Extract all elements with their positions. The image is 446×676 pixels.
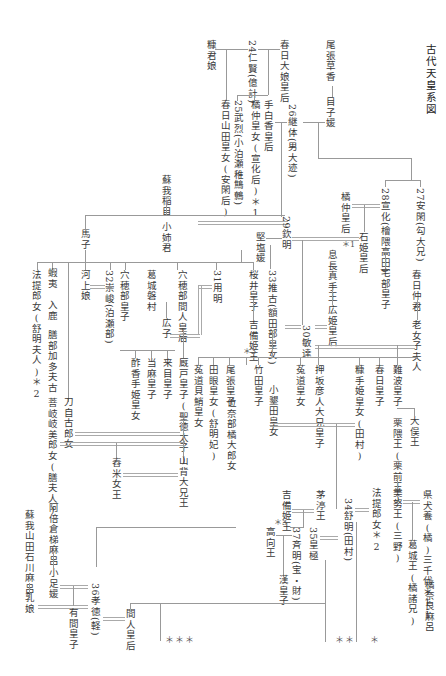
marriage-line (352, 204, 380, 208)
line (166, 302, 167, 318)
line (53, 552, 54, 568)
marriage-line (75, 432, 180, 436)
line (318, 122, 319, 158)
node-emishi: 蝦夷 (47, 268, 58, 289)
line (96, 527, 97, 567)
line (412, 502, 413, 540)
line (332, 86, 333, 97)
node-chinu: 茅渟王 (315, 490, 326, 522)
line (160, 603, 325, 604)
line (85, 215, 285, 216)
node-uji-kaidako: 菟道貝鮹皇女 (193, 365, 204, 428)
footnote-mark: ＊3 (274, 516, 287, 527)
node-kume: 来目皇子 (162, 358, 173, 400)
node-kasuga-oiratsume: 春日大娘皇后 (279, 40, 290, 103)
node-hashihito-kogo: 間人皇后 (125, 609, 136, 651)
line (229, 357, 230, 365)
line (414, 408, 415, 416)
line (216, 262, 217, 270)
node-hote: 法提郎女(舒明夫人)＊2 (31, 270, 42, 399)
line (318, 345, 319, 365)
node-oane: 小姉君 (161, 222, 172, 254)
node-hirohime: 広姫皇后 (327, 305, 338, 347)
marriage-line (60, 585, 88, 589)
line (385, 255, 386, 268)
line (167, 350, 168, 358)
node-emperor-29: 29欽明 (281, 216, 292, 250)
node-emperor-26: 26継体(男大迹) (287, 104, 298, 178)
line (325, 560, 326, 642)
marriage-line (103, 617, 125, 621)
marriage-line (285, 325, 301, 329)
line (332, 290, 333, 305)
node-hote-2: 法提郎女＊2 (371, 488, 382, 552)
line (397, 345, 398, 365)
line (303, 122, 325, 123)
node-hokiki: 菩岐岐美郎女(膳夫人) (47, 398, 58, 516)
line (420, 180, 421, 187)
node-sukate: 酢香手姫皇女 (130, 358, 141, 421)
node-tsukishine: 舂米女王 (111, 458, 122, 500)
node-katsuragi-nimuraji: 葛城磐村 (146, 270, 157, 312)
node-oharida: 小墾田皇女 (268, 385, 279, 438)
node-naramaro: 橘奈良麻呂 (424, 580, 435, 633)
node-uji-himemiko: 菟道皇女 (295, 365, 306, 407)
line (85, 250, 86, 262)
node-taima: 当麻皇子 (146, 358, 157, 400)
line (385, 180, 386, 187)
continuation-mark: ＊＊ (335, 633, 355, 646)
marriage-line (270, 423, 355, 427)
line (253, 300, 254, 320)
node-otarashi: 小足媛 (48, 568, 59, 600)
node-soga-yamada: 蘇我山田石川麻呂 (24, 510, 35, 594)
line (258, 49, 280, 50)
line (198, 357, 308, 358)
continuation-mark: ＊＊＊ (165, 633, 195, 646)
line (241, 250, 242, 262)
line (411, 158, 412, 180)
line (198, 357, 199, 365)
line (385, 180, 420, 181)
line (68, 262, 69, 402)
node-owari-kusaka: 尾張草香 (325, 40, 336, 82)
line (302, 240, 303, 325)
node-emperor-37: 37斉明(宝・財) (291, 527, 302, 601)
node-tachibana-kogo: 橘仲皇后 (340, 192, 351, 234)
node-emperor-36: 36孝徳(軽) (90, 583, 101, 636)
node-takamuku: 高向王 (265, 527, 276, 559)
line (237, 95, 268, 96)
node-kashiwade: 膳部加多夫古 (47, 330, 58, 393)
marriage-line (355, 508, 369, 512)
node-emperor-30: 30敏達 (301, 325, 312, 359)
marriage-line (170, 334, 200, 338)
line (37, 262, 38, 270)
line (300, 357, 301, 365)
node-minu: 美努王(三野) (392, 488, 403, 564)
node-kitashi: 堅塩媛 (255, 232, 266, 264)
line (166, 205, 167, 215)
marriage-line (315, 345, 415, 349)
line (253, 262, 254, 270)
line (85, 215, 86, 229)
line (258, 357, 259, 365)
node-chi-no-iratsume: 乳娘 (24, 593, 35, 614)
line (96, 527, 236, 528)
line (216, 262, 254, 263)
line (110, 262, 111, 270)
node-tachibana-nakatsu: 橘仲皇女(宣化后)＊1 (250, 100, 261, 219)
line (183, 330, 184, 350)
line (135, 350, 136, 358)
line (268, 49, 269, 95)
node-katsuragi-o: 葛城王(橘諸兄) (407, 540, 418, 626)
marriage-line (60, 442, 185, 446)
node-yamashiro: 山背大兄王 (178, 456, 189, 509)
line (130, 603, 160, 604)
marriage-line (315, 325, 327, 329)
line (85, 262, 86, 270)
marriage-line (198, 221, 288, 225)
node-ishihime: 石姫皇后 (358, 232, 369, 274)
line (283, 535, 284, 575)
line (125, 262, 126, 270)
line (266, 238, 282, 239)
line (151, 350, 152, 358)
